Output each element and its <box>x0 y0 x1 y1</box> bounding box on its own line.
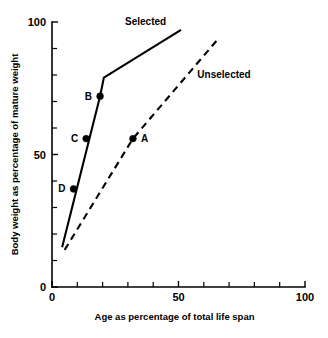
y-axis-title: Body weight as percentage of mature weig… <box>9 53 20 255</box>
point-label-a: A <box>141 133 148 144</box>
data-point-d <box>70 186 77 193</box>
x-tick-label: 100 <box>296 291 314 303</box>
point-label-b: B <box>85 91 92 102</box>
y-tick-label: 100 <box>28 16 46 28</box>
series-label-selected: Selected <box>125 16 166 27</box>
chart-container: 050100 050100 ABCD SelectedUnselected Ag… <box>0 0 328 338</box>
growth-curve-chart: 050100 050100 ABCD SelectedUnselected Ag… <box>0 0 328 338</box>
y-tick-label: 50 <box>34 149 46 161</box>
x-tick-label: 0 <box>49 291 55 303</box>
y-tick-label: 0 <box>40 281 46 293</box>
point-label-d: D <box>58 183 65 194</box>
point-label-c: C <box>71 133 78 144</box>
x-tick-label: 50 <box>172 291 184 303</box>
data-point-c <box>83 135 90 142</box>
data-point-b <box>97 93 104 100</box>
x-axis-title: Age as percentage of total life span <box>95 311 255 322</box>
series-label-unselected: Unselected <box>197 69 250 80</box>
data-point-a <box>130 135 137 142</box>
